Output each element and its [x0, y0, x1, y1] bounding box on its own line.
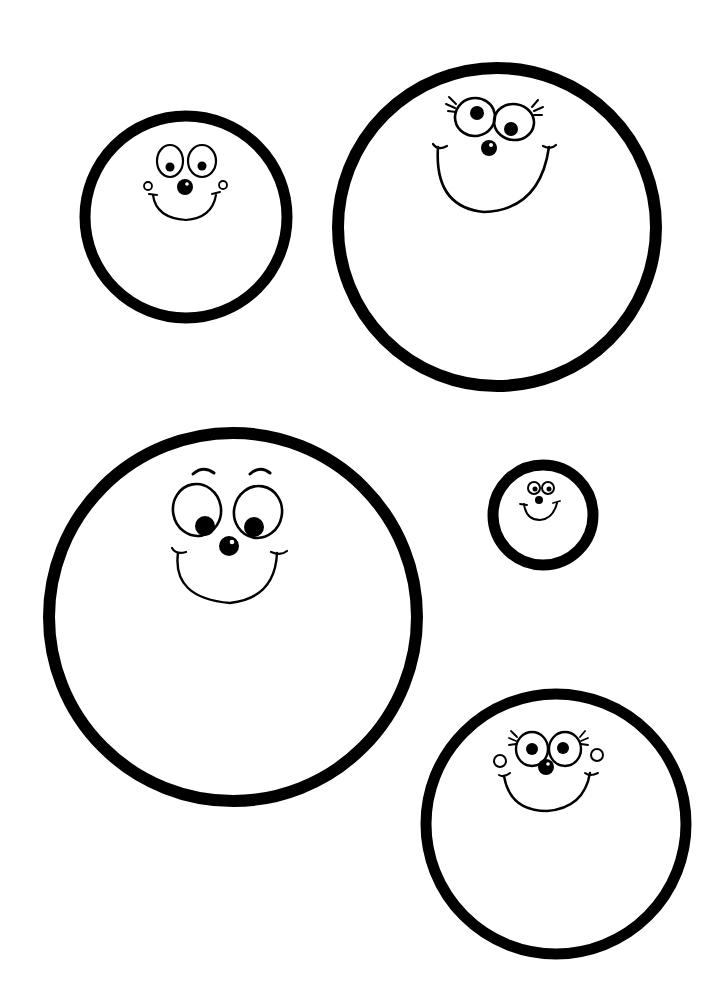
face-features [144, 145, 227, 220]
right-pupil-icon [547, 487, 552, 492]
left-pupil-icon [470, 106, 484, 120]
right-dimple [585, 773, 598, 775]
nose-icon [177, 179, 193, 195]
left-cheek-icon [144, 182, 152, 190]
mouth-smile-icon [504, 773, 590, 811]
left-pupil-icon [195, 516, 215, 536]
mouth-smile-icon [524, 503, 557, 520]
nose-highlight [489, 143, 493, 147]
right-eye-icon [492, 101, 537, 142]
right-pupil-icon [244, 517, 264, 537]
left-cheek-icon [494, 755, 506, 767]
smiley-circle-tiny: Tiny circle with small smiling face [493, 465, 593, 565]
right-pupil-icon [198, 162, 207, 171]
nose-icon [538, 759, 554, 775]
right-dimple [553, 501, 560, 503]
right-eye-icon [188, 145, 216, 177]
face-features [494, 731, 603, 811]
mouth-smile-icon [177, 553, 277, 603]
left-dimple [520, 504, 527, 505]
left-dimple [499, 773, 510, 776]
left-dimple [433, 144, 447, 148]
nose-icon [219, 536, 239, 556]
left-eyelashes-icon [446, 97, 456, 112]
right-dimple [212, 192, 220, 194]
circle-outline [338, 68, 656, 386]
nose-highlight [546, 762, 550, 766]
left-dimple [172, 548, 186, 553]
right-eyelashes-icon [532, 100, 543, 115]
right-dimple [271, 551, 287, 554]
nose-icon [535, 496, 543, 504]
circle-outline [49, 433, 417, 801]
coloring-page: Smiley face circles Small circle with ro… [0, 0, 715, 1003]
left-eyebrow-icon [193, 469, 214, 474]
right-cheek-icon [591, 749, 603, 761]
left-eye-icon [157, 145, 183, 177]
left-pupil-icon [526, 743, 538, 755]
circle-outline [85, 116, 287, 318]
mouth-smile-icon [153, 195, 216, 220]
mouth-smile-icon [438, 147, 549, 212]
smiley-circle-small: Small circle with round-eyed smiling fac… [85, 116, 287, 318]
left-pupil-icon [166, 163, 175, 172]
face-features [169, 469, 287, 603]
right-pupil-icon [504, 122, 518, 136]
left-dimple [149, 194, 157, 195]
circle-outline [426, 694, 686, 954]
right-pupil-icon [557, 742, 569, 754]
smiley-circle-large: Large circle with eyelashed smiling face [338, 68, 656, 386]
smiley-circle-extra-large: Large circle with eyebrowed face looking… [49, 433, 417, 801]
nose-icon [481, 140, 497, 156]
smiley-circle-medium: Medium circle with eyelashed smiling fac… [426, 694, 686, 954]
left-pupil-icon [533, 487, 538, 492]
right-cheek-icon [219, 181, 227, 189]
face-features [520, 482, 560, 520]
smiley-circles-illustration: Small circle with round-eyed smiling fac… [0, 0, 715, 1003]
face-features [433, 95, 556, 212]
right-eyebrow-icon [250, 469, 270, 474]
circle-outline [493, 465, 593, 565]
nose-highlight [230, 540, 235, 545]
nose-highlight [185, 182, 189, 186]
